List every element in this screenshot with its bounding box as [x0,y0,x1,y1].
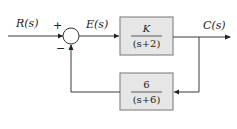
output-arrow-icon [225,35,231,40]
block-diagram: R(s) + − E(s) K (s+2) C(s) 6 (s+6) [0,0,237,129]
output-signal-label: C(s) [203,19,226,32]
input-arrow-icon [58,34,63,39]
forward-denominator: (s+2) [133,38,161,49]
input-signal-label: R(s) [15,17,39,30]
error-signal-label: E(s) [85,18,108,31]
feedback-denominator: (s+6) [133,94,161,105]
feedback-in-arrow-icon [174,90,179,95]
summing-junction [63,28,79,44]
feedback-return-wire [71,45,120,92]
feedback-numerator: 6 [143,79,149,90]
plus-sign: + [53,19,62,32]
forward-numerator: K [142,23,151,34]
minus-sign: − [56,42,65,55]
error-arrow-icon [114,34,119,39]
feedback-takeoff-wire [174,37,199,92]
feedback-out-arrow-icon [69,44,74,50]
